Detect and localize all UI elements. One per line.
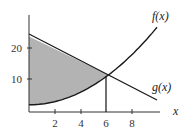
f-label: f(x) <box>152 9 169 23</box>
shaded-region <box>29 37 108 105</box>
x-tick-label-8: 8 <box>129 117 135 129</box>
y-tick-label-10: 10 <box>11 73 23 85</box>
y-tick-label-20: 20 <box>11 42 23 54</box>
chart: 2 4 6 8 20 10 f(x) g(x) x <box>0 0 187 135</box>
x-axis-label: x <box>172 104 179 118</box>
g-label: g(x) <box>152 80 171 94</box>
x-tick-label-6: 6 <box>103 117 109 129</box>
x-tick-label-4: 4 <box>78 117 84 129</box>
x-tick-label-2: 2 <box>52 117 58 129</box>
